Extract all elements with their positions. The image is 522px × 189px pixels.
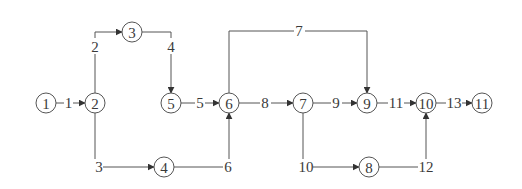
edge-6-9: 7 [229,23,367,93]
node-label: 7 [299,96,307,112]
edge-label: 10 [299,159,314,175]
node-label: 1 [42,96,50,112]
edge-label: 5 [196,95,204,111]
edge-6-7: 8 [239,95,293,111]
node-label: 2 [91,96,99,112]
edge-label: 2 [91,39,99,55]
node-3: 3 [122,22,142,42]
edge-10-11: 13 [436,95,472,111]
node-label: 4 [160,160,168,176]
edge-8-10: 12 [379,113,434,175]
edge-9-10: 11 [377,95,416,111]
edge-1-2: 1 [56,95,85,111]
node-7: 7 [293,93,313,113]
node-2: 2 [85,93,105,113]
edge-label: 3 [95,159,103,175]
edge-label: 11 [389,95,403,111]
node-5: 5 [161,93,181,113]
edge-label: 13 [447,95,462,111]
edge-3-5: 4 [142,32,176,93]
node-label: 11 [475,96,489,112]
edge-label: 7 [295,23,303,39]
edge-4-6: 6 [174,113,234,175]
edge-2-3: 2 [90,32,122,93]
node-4: 4 [154,157,174,177]
edge-label: 4 [167,39,175,55]
edge-label: 1 [65,95,73,111]
network-diagram: 1 2 3 4 5 6 [0,0,522,189]
edge-5-6: 5 [181,95,219,111]
edge-2-4: 3 [94,113,154,175]
node-label: 8 [365,160,373,176]
edge-label: 8 [261,95,269,111]
node-label: 6 [225,96,233,112]
node-label: 5 [167,96,175,112]
edge-label: 6 [224,159,232,175]
node-8: 8 [359,157,379,177]
node-9: 9 [357,93,377,113]
edge-7-8: 10 [297,113,359,175]
node-label: 3 [128,25,136,41]
node-label: 9 [363,96,371,112]
node-10: 10 [416,93,436,113]
node-1: 1 [36,93,56,113]
edge-label: 12 [419,159,434,175]
node-6: 6 [219,93,239,113]
node-label: 10 [419,96,434,112]
edge-7-9: 9 [313,95,357,111]
edges: 1 2 3 4 5 6 [56,23,472,175]
node-11: 11 [472,93,492,113]
edge-label: 9 [332,95,340,111]
